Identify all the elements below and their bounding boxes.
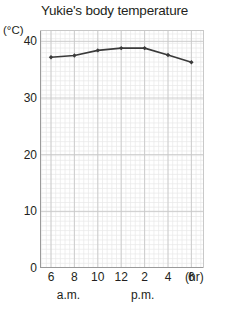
y-axis-tick-label: 10 (3, 204, 37, 218)
x-axis-tick-label: 4 (165, 270, 172, 284)
plot-frame (40, 30, 204, 268)
minor-gridlines (40, 30, 204, 268)
line-chart-svg (40, 30, 204, 268)
plot-area (40, 30, 204, 268)
x-axis-period-labels: a.m.p.m. (0, 288, 229, 306)
x-axis-period-label: a.m. (57, 288, 80, 302)
x-axis-tick-label: 10 (91, 270, 104, 284)
y-axis-tick-label: 40 (3, 34, 37, 48)
x-axis-tick-label: 12 (115, 270, 128, 284)
x-axis-tick-label: 8 (71, 270, 78, 284)
x-axis-tick-labels: (hr) 681012246 (0, 270, 229, 290)
chart-page: Yukie's body temperature (°C) 010203040 … (0, 0, 229, 320)
x-axis-period-label: p.m. (131, 288, 154, 302)
y-axis-tick-label: 20 (3, 148, 37, 162)
major-gridlines (40, 30, 204, 268)
x-axis-tick-label: 2 (141, 270, 148, 284)
y-axis-tick-label: 30 (3, 91, 37, 105)
x-axis-tick-label: 6 (188, 270, 195, 284)
x-axis-tick-label: 6 (48, 270, 55, 284)
